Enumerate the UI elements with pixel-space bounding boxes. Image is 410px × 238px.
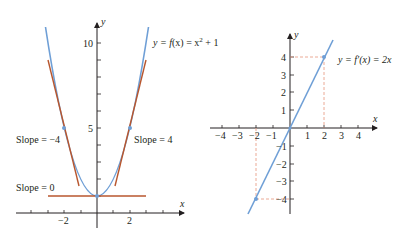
point-left: [62, 126, 66, 130]
right-y-tick-neg4: −4: [276, 194, 287, 205]
slope-label-neg4: Slope = −4: [16, 134, 60, 145]
right-x-tick-neg2: −2: [249, 130, 260, 141]
right-y-tick-neg1: −1: [276, 141, 287, 152]
right-y-tick-1: 1: [281, 105, 286, 116]
point-origin: [288, 126, 291, 129]
right-y-axis-label: y: [293, 29, 299, 40]
right-x-tick-neg4: −4: [215, 130, 226, 141]
tangent-right: [115, 60, 146, 186]
slope-label-0: Slope = 0: [16, 182, 54, 193]
right-y-tick-neg2: −2: [276, 159, 287, 170]
left-x-tick-2: 2: [127, 215, 132, 226]
left-y-tick-5: 5: [88, 123, 93, 134]
left-y-tick-10: 10: [83, 38, 93, 49]
point-2-4: [322, 55, 326, 59]
point-neg2-neg4: [254, 197, 258, 201]
right-x-axis-label: x: [372, 113, 378, 124]
right-x-tick-4: 4: [356, 130, 361, 141]
right-graph: y x y = f′(x) = 2x −4 −3 −2 −1 1 2 3 4 4…: [210, 29, 392, 214]
slope-label-4: Slope = 4: [134, 134, 172, 145]
right-curve-label: y = f′(x) = 2x: [337, 54, 392, 66]
point-right: [128, 126, 132, 130]
left-graph: y x 10 5 −2 2 Slope = −4 Slope = 4 Slope…: [16, 16, 218, 228]
right-x-tick-neg3: −3: [232, 130, 243, 141]
left-y-ticks: [97, 43, 101, 196]
derivative-figure: y x 10 5 −2 2 Slope = −4 Slope = 4 Slope…: [0, 0, 410, 238]
left-curve-label: y = f(x) = x2 + 1: [152, 36, 218, 49]
right-y-tick-neg3: −3: [276, 176, 287, 187]
point-vertex: [95, 194, 99, 198]
right-y-tick-2: 2: [281, 87, 286, 98]
left-y-axis-label: y: [100, 16, 106, 27]
right-x-tick-1: 1: [305, 130, 310, 141]
left-x-tick-neg2: −2: [58, 215, 69, 226]
left-x-axis-label: x: [179, 198, 185, 209]
right-y-tick-3: 3: [281, 70, 286, 81]
right-y-tick-4: 4: [281, 52, 286, 63]
tangent-left: [48, 60, 79, 186]
right-x-tick-3: 3: [339, 130, 344, 141]
right-x-tick-neg1: −1: [266, 130, 277, 141]
right-x-tick-2: 2: [322, 130, 327, 141]
